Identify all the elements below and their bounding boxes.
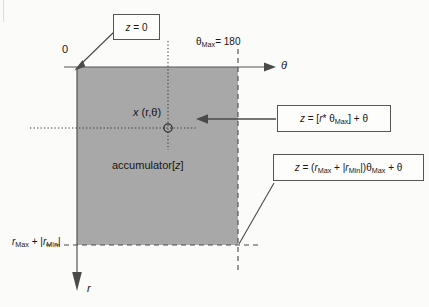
z-max-leader-line bbox=[239, 183, 274, 244]
callout-z-max-plus: + | bbox=[331, 162, 345, 173]
sample-point-label: x (r,θ) bbox=[133, 107, 161, 118]
theta-axis-glyph: θ bbox=[281, 59, 287, 71]
callout-z-max-theta2: θ bbox=[397, 162, 403, 173]
accumulator-array-label: accumulator[z] bbox=[112, 160, 184, 171]
callout-z-max: z = (rMax + |rMin|)θMax + θ bbox=[273, 154, 424, 181]
sample-point-coords: (r,θ) bbox=[142, 106, 162, 118]
callout-z-formula-eq: = [ bbox=[305, 113, 319, 124]
callout-z-max-theta: θ bbox=[366, 162, 372, 173]
callout-z-max-eq: = ( bbox=[300, 162, 315, 173]
theta-axis-label: θ bbox=[281, 60, 287, 71]
callout-z-max-tail: + bbox=[385, 162, 396, 173]
origin-label: 0 bbox=[62, 44, 68, 55]
callout-z-formula: z = [r* θMax] + θ bbox=[277, 105, 391, 132]
callout-z-max-sub3: Max bbox=[372, 166, 386, 175]
diagram-canvas: 0 θ r θMax= 180 x (r,θ) accumulator[z] r… bbox=[0, 0, 429, 307]
r-axis-label: r bbox=[87, 283, 91, 294]
theta-max-symbol: θ bbox=[196, 36, 202, 47]
scan-artifact bbox=[3, 0, 4, 22]
callout-z-zero: z = 0 bbox=[113, 14, 160, 40]
callout-z-max-sub1: Max bbox=[318, 166, 332, 175]
theta-max-value: = 180 bbox=[215, 36, 240, 47]
callout-z-formula-theta: θ bbox=[326, 113, 334, 124]
callout-z-formula-text: z = [r* θMax] + θ bbox=[300, 113, 368, 124]
callout-z-max-sub2: Min bbox=[349, 166, 361, 175]
z-zero-leader-line bbox=[79, 31, 115, 66]
sample-point-x: x bbox=[133, 106, 139, 118]
theta-axis-arrowhead bbox=[264, 63, 276, 72]
accumulator-text: accumulator[ bbox=[112, 159, 175, 171]
r-axis-arrowhead bbox=[72, 272, 82, 291]
callout-z-formula-sub: Max bbox=[335, 117, 349, 126]
r-extent-bar-close: | bbox=[58, 236, 61, 247]
theta-max-subscript: Max bbox=[202, 40, 216, 49]
theta-max-tick-label: θMax= 180 bbox=[196, 37, 240, 47]
accumulator-region bbox=[77, 67, 238, 245]
callout-z-formula-theta2: θ bbox=[363, 113, 369, 124]
r-extent-plus: + bbox=[29, 236, 40, 247]
callout-z-zero-eq: = 0 bbox=[133, 22, 147, 33]
r-extent-sub2: Min bbox=[46, 240, 58, 249]
callout-z-zero-z: z bbox=[126, 22, 131, 33]
callout-z-formula-close: ] + bbox=[348, 113, 362, 124]
r-extent-sub1: Max bbox=[15, 240, 29, 249]
r-extent-label: rMax + |rMin| bbox=[12, 237, 61, 247]
accumulator-bracket: ] bbox=[180, 159, 183, 171]
callout-z-zero-text: z = 0 bbox=[126, 22, 148, 33]
callout-z-max-text: z = (rMax + |rMin|)θMax + θ bbox=[295, 162, 403, 173]
